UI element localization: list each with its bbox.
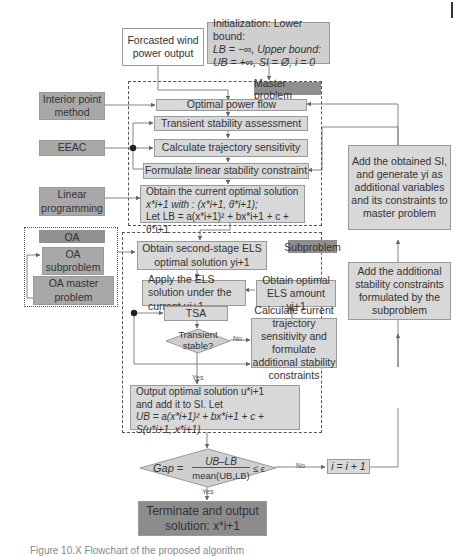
gap-lhs: Gap = — [153, 462, 183, 474]
second-stage-els-box: Obtain second-stage ELS optimal solution… — [137, 241, 267, 270]
figure-caption: Figure 10.X Flowchart of the proposed al… — [30, 545, 244, 556]
gap-denominator: mean(UB,LB) — [192, 470, 250, 481]
master-problem-tag: Master problem — [254, 82, 321, 95]
master-problem-label: Master problem — [254, 77, 321, 101]
current-optimal-solution-box: Obtain the current optimal solution x*i+… — [140, 185, 305, 223]
oa-master-problem-box: OA master problem — [33, 276, 114, 305]
add-constraints-label: Add the additional stability constraints… — [349, 265, 450, 318]
wind-power-label: Forcasted wind power output — [123, 34, 203, 60]
linear-programming-box: Linear programming — [39, 187, 105, 216]
gap-numerator: UB–LB — [192, 456, 250, 468]
interior-point-method-box: Interior point method — [39, 92, 105, 120]
gap-no-label: No — [296, 462, 305, 469]
tsa-label: TSA — [186, 307, 206, 320]
step-label: Optimal power flow — [187, 98, 276, 111]
subproblem-label: Subproblem — [284, 241, 341, 253]
gap-yes-label: Yes — [202, 488, 213, 495]
subproblem-tag: Subproblem — [288, 240, 337, 253]
apply-els-box: Apply the ELS solution under the current… — [142, 280, 246, 306]
output-line-3: UB = a(x*i+1)² + bx*i+1 + c + S(u*i+1, x… — [136, 411, 299, 436]
step-label: Formulate linear stability constraint — [145, 164, 307, 177]
add-si-label: Add the obtained SI, and generate yi as … — [349, 155, 450, 221]
output-optimal-solution-box: Output optimal solution u*i+1 and add it… — [130, 385, 300, 430]
step-optimal-power-flow: Optimal power flow — [156, 99, 307, 111]
add-constraints-box: Add the additional stability constraints… — [348, 262, 451, 320]
eeac-box: EEAC — [39, 140, 105, 156]
oa-tag: OA — [39, 230, 105, 243]
terminate-output-box: Terminate and output solution: x*i+1 — [138, 501, 267, 536]
calc-current-label: Calculate current trajectory sensitivity… — [252, 304, 336, 383]
output-line-1: Output optimal solution u*i+1 — [136, 386, 264, 399]
init-line-1: Initialization: Lower bound: — [213, 17, 329, 43]
initialization-box: Initialization: Lower bound: LB = −∞, Up… — [207, 22, 330, 64]
increment-label: i = i + 1 — [331, 460, 365, 473]
second-stage-label: Obtain second-stage ELS optimal solution… — [138, 242, 266, 268]
add-si-box: Add the obtained SI, and generate yi as … — [348, 145, 451, 230]
terminate-line-2: solution: x*i+1 — [165, 519, 240, 534]
terminate-line-1: Terminate and output — [146, 504, 259, 519]
step-trajectory-sensitivity: Calculate trajectory sensitivity — [154, 139, 308, 157]
method-label: EEAC — [58, 141, 87, 154]
gap-rhs: ≤ ϵ — [253, 463, 265, 474]
oa-subproblem-box: OA subproblem — [42, 247, 104, 275]
decision-yes-label: Yes — [192, 374, 203, 381]
increment-i-box: i = i + 1 — [327, 459, 370, 474]
init-line-3: UB = +∞, SI = Ø, i = 0 — [213, 56, 315, 69]
step-linear-stability-constraint: Formulate linear stability constraint — [143, 163, 309, 179]
solution-line-1: Obtain the current optimal solution — [146, 186, 298, 199]
wind-power-input: Forcasted wind power output — [122, 28, 204, 66]
step-label: Transient stability assessment — [161, 117, 301, 130]
step-label: Calculate trajectory sensitivity — [162, 141, 300, 154]
decision-no-label: No — [233, 335, 242, 342]
tsa-box: TSA — [164, 306, 228, 321]
step-transient-stability-assessment: Transient stability assessment — [154, 116, 308, 131]
oa-label: OA — [64, 231, 79, 243]
output-line-2: and add it to SI. Let — [136, 399, 223, 412]
init-line-2: LB = −∞, Upper bound: — [213, 43, 321, 56]
oa-subproblem-label: OA subproblem — [43, 248, 103, 274]
transient-stable-label: Transient stable? — [170, 330, 226, 352]
method-label: Linear programming — [40, 188, 104, 214]
method-label: Interior point method — [40, 93, 104, 119]
oa-master-label: OA master problem — [34, 277, 113, 303]
calculate-current-sensitivity-box: Calculate current trajectory sensitivity… — [251, 318, 337, 368]
solution-line-2: x*i+1 with : (x*i+1, θ*i+1); — [146, 199, 258, 212]
